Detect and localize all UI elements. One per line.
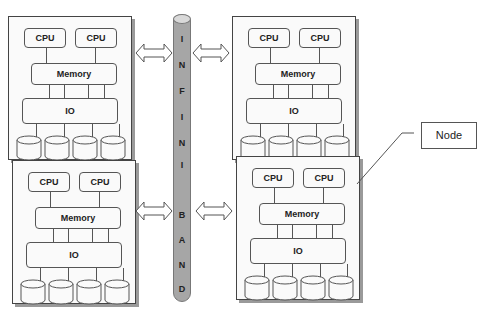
disk-icon bbox=[48, 279, 74, 305]
cpu-box: CPU bbox=[75, 28, 117, 48]
cpu-box: CPU bbox=[299, 28, 341, 48]
bus-letter: I bbox=[173, 160, 191, 170]
cpu-box: CPU bbox=[24, 28, 66, 48]
connector-line bbox=[95, 48, 96, 63]
bus-letter: B bbox=[173, 210, 191, 220]
disk-icon bbox=[272, 275, 298, 301]
node-callout-label: Node bbox=[421, 122, 477, 149]
node-bottom-left: CPU CPU Memory IO bbox=[12, 160, 136, 304]
cpu-box: CPU bbox=[303, 168, 345, 188]
double-arrow-icon bbox=[195, 201, 233, 221]
node-top-right: CPU CPU Memory IO bbox=[232, 16, 356, 160]
memory-box: Memory bbox=[255, 63, 341, 85]
disk-icon bbox=[100, 135, 126, 161]
node-top-left: CPU CPU Memory IO bbox=[8, 16, 132, 160]
bus-letter: N bbox=[173, 138, 191, 148]
memory-box: Memory bbox=[35, 207, 121, 229]
connector-line bbox=[316, 225, 317, 238]
connector-line bbox=[46, 48, 47, 63]
connector-line bbox=[88, 85, 89, 98]
bus-letter: D bbox=[173, 284, 191, 294]
connector-line bbox=[277, 225, 278, 238]
connector-line bbox=[49, 85, 50, 98]
connector-line bbox=[312, 85, 313, 98]
bus-letter: N bbox=[173, 260, 191, 270]
connector-line bbox=[292, 225, 293, 238]
double-arrow-icon bbox=[192, 43, 230, 63]
cpu-box: CPU bbox=[248, 28, 290, 48]
bus-letter: I bbox=[173, 34, 191, 44]
io-box: IO bbox=[22, 98, 118, 124]
double-arrow-icon bbox=[135, 43, 173, 63]
disk-icon bbox=[244, 275, 270, 301]
connector-line bbox=[92, 229, 93, 242]
cpu-box: CPU bbox=[28, 172, 70, 192]
connector-line bbox=[328, 85, 329, 98]
node-bottom-right: CPU CPU Memory IO bbox=[236, 156, 360, 300]
infiniband-bus: I N F I N I B A N D bbox=[173, 14, 191, 306]
connector-line bbox=[68, 229, 69, 242]
bus-letter: F bbox=[173, 86, 191, 96]
bus-letter: I bbox=[173, 112, 191, 122]
disk-icon bbox=[44, 135, 70, 161]
io-box: IO bbox=[246, 98, 342, 124]
bus-letter: A bbox=[173, 235, 191, 245]
disk-icon bbox=[16, 135, 42, 161]
connector-line bbox=[50, 192, 51, 207]
connector-line bbox=[332, 225, 333, 238]
connector-line bbox=[53, 229, 54, 242]
cpu-box: CPU bbox=[252, 168, 294, 188]
connector-line bbox=[270, 48, 271, 63]
bus-top bbox=[173, 14, 191, 24]
disk-icon bbox=[328, 275, 354, 301]
connector-line bbox=[104, 85, 105, 98]
connector-line bbox=[274, 188, 275, 203]
memory-box: Memory bbox=[31, 63, 117, 85]
connector-line bbox=[319, 48, 320, 63]
bus-letter: N bbox=[173, 60, 191, 70]
connector-line bbox=[323, 188, 324, 203]
memory-box: Memory bbox=[259, 203, 345, 225]
io-box: IO bbox=[250, 238, 346, 264]
io-box: IO bbox=[26, 242, 122, 268]
connector-line bbox=[273, 85, 274, 98]
disk-icon bbox=[76, 279, 102, 305]
connector-line bbox=[99, 192, 100, 207]
double-arrow-icon bbox=[135, 201, 173, 221]
connector-line bbox=[64, 85, 65, 98]
disk-icon bbox=[72, 135, 98, 161]
connector-line bbox=[288, 85, 289, 98]
disk-icon bbox=[300, 275, 326, 301]
disk-icon bbox=[104, 279, 130, 305]
cpu-box: CPU bbox=[79, 172, 121, 192]
disk-icon bbox=[20, 279, 46, 305]
connector-line bbox=[108, 229, 109, 242]
